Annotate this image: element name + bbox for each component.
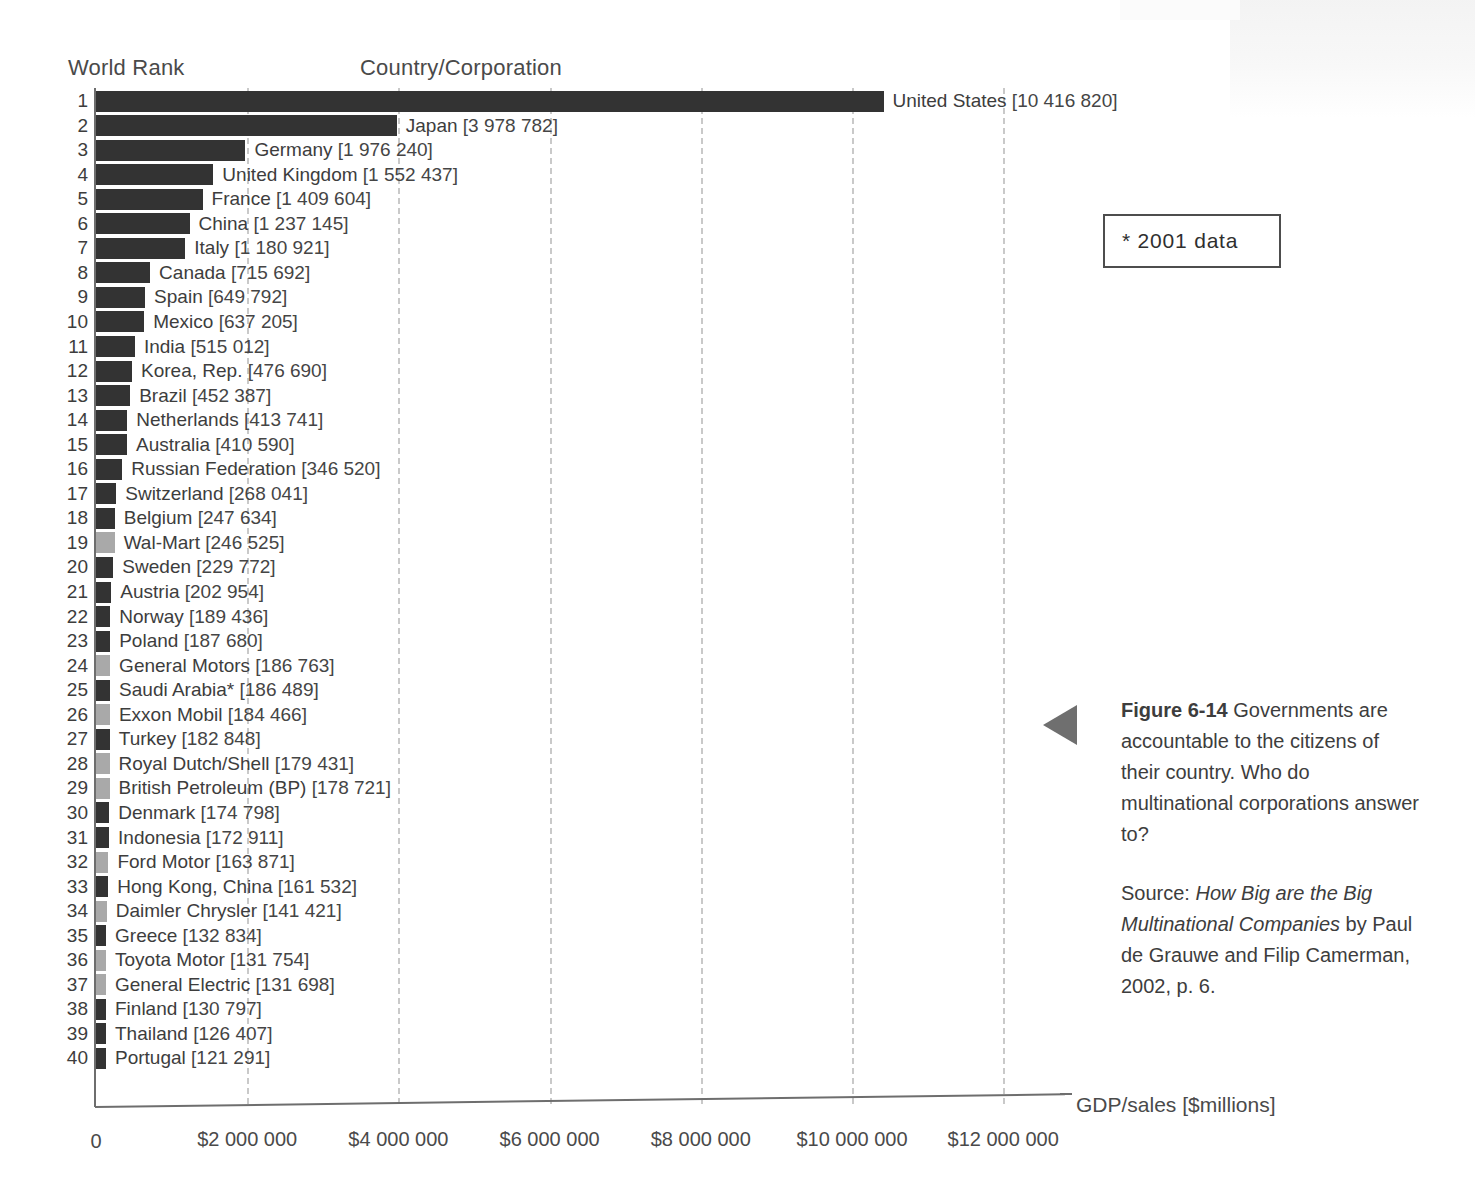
bar-label-value: [132 834]	[177, 925, 262, 946]
bar-country	[96, 508, 115, 529]
bar-label: Brazil [452 387]	[139, 385, 271, 406]
bar-label-name: General Motors	[119, 655, 250, 676]
bar-label: General Electric [131 698]	[115, 974, 335, 995]
bar-label-value: [189 436]	[184, 606, 269, 627]
bar-label-value: [202 954]	[179, 581, 264, 602]
bar-country	[96, 827, 109, 848]
bar-country	[96, 336, 135, 357]
row-rank: 33	[56, 877, 88, 897]
bar-label-value: [179 431]	[270, 753, 355, 774]
bar-label-name: Belgium	[124, 507, 193, 528]
row-rank: 40	[56, 1048, 88, 1068]
bar-label-value: [715 692]	[226, 262, 311, 283]
bar-label-name: Canada	[159, 262, 226, 283]
bar-label: British Petroleum (BP) [178 721]	[119, 777, 391, 798]
x-axis-line-tail	[1060, 1093, 1072, 1095]
bar-row: 21Austria [202 954]	[0, 580, 1475, 605]
bar-label: Norway [189 436]	[119, 606, 268, 627]
bar-row: 16Russian Federation [346 520]	[0, 457, 1475, 482]
bar-label-value: [413 741]	[239, 409, 324, 430]
bar-label: Russian Federation [346 520]	[131, 458, 380, 479]
bar-label-name: Denmark	[118, 802, 195, 823]
footnote-text: * 2001 data	[1122, 229, 1238, 253]
bar-row: 18Belgium [247 634]	[0, 506, 1475, 531]
bar-label-name: Royal Dutch/Shell	[119, 753, 270, 774]
bar-label-value: [637 205]	[213, 311, 298, 332]
bar-row: 12Korea, Rep. [476 690]	[0, 359, 1475, 384]
bar-label: Netherlands [413 741]	[136, 409, 323, 430]
bar-label-value: [649 792]	[203, 286, 288, 307]
row-rank: 34	[56, 901, 88, 921]
bar-country	[96, 361, 132, 382]
bar-label-name: Indonesia	[118, 827, 200, 848]
x-tick-label: $12 000 000	[948, 1128, 1059, 1151]
bar-label: France [1 409 604]	[212, 188, 372, 209]
row-rank: 13	[56, 386, 88, 406]
row-rank: 18	[56, 508, 88, 528]
bar-row: 13Brazil [452 387]	[0, 384, 1475, 409]
bar-label-value: [187 680]	[178, 630, 263, 651]
bar-country	[96, 410, 127, 431]
bar-row: 17Switzerland [268 041]	[0, 482, 1475, 507]
bar-label-value: [229 772]	[191, 556, 276, 577]
bar-country	[96, 876, 108, 897]
bar-label-value: [247 634]	[192, 507, 277, 528]
bar-country	[96, 262, 150, 283]
bar-country	[96, 434, 127, 455]
bar-label-value: [1 237 145]	[248, 213, 348, 234]
bar-label-value: [141 421]	[257, 900, 342, 921]
bar-label-name: Sweden	[122, 556, 191, 577]
bar-label-value: [476 690]	[242, 360, 327, 381]
figure-caption: Figure 6-14 Governments are accountable …	[1121, 695, 1421, 1002]
bar-label-name: Brazil	[139, 385, 187, 406]
x-tick-label: $6 000 000	[500, 1128, 600, 1151]
bar-row: 15Australia [410 590]	[0, 433, 1475, 458]
bar-country	[96, 311, 144, 332]
bar-label-name: Germany	[254, 139, 332, 160]
bar-label-value: [182 848]	[176, 728, 261, 749]
bar-row: 23Poland [187 680]	[0, 629, 1475, 654]
row-rank: 7	[56, 238, 88, 258]
bar-label: Exxon Mobil [184 466]	[119, 704, 307, 725]
bar-label-name: Norway	[119, 606, 183, 627]
bar-label-value: [268 041]	[223, 483, 308, 504]
bar-label: Hong Kong, China [161 532]	[117, 876, 357, 897]
bar-label-value: [452 387]	[187, 385, 272, 406]
bar-country	[96, 802, 109, 823]
row-rank: 9	[56, 287, 88, 307]
bar-label: Mexico [637 205]	[153, 311, 298, 332]
row-rank: 31	[56, 828, 88, 848]
row-rank: 20	[56, 557, 88, 577]
bar-label: United States [10 416 820]	[893, 90, 1118, 111]
bar-corporation	[96, 974, 106, 995]
bar-country	[96, 238, 185, 259]
bar-corporation	[96, 704, 110, 725]
source-prefix: Source:	[1121, 882, 1195, 904]
bar-label: Japan [3 978 782]	[406, 115, 558, 136]
bar-label-value: [1 180 921]	[229, 237, 329, 258]
bar-label: Portugal [121 291]	[115, 1047, 270, 1068]
bar-label: Italy [1 180 921]	[194, 237, 329, 258]
row-rank: 8	[56, 263, 88, 283]
bar-label: Korea, Rep. [476 690]	[141, 360, 327, 381]
bar-label-value: [130 797]	[177, 998, 262, 1019]
row-rank: 17	[56, 484, 88, 504]
bar-label-name: Australia	[136, 434, 210, 455]
bar-label-value: [126 407]	[188, 1023, 273, 1044]
bar-country	[96, 631, 110, 652]
bar-label-name: Exxon Mobil	[119, 704, 223, 725]
x-tick-label: $8 000 000	[651, 1128, 751, 1151]
bar-country	[96, 680, 110, 701]
bar-corporation	[96, 950, 106, 971]
bar-row: 5France [1 409 604]	[0, 187, 1475, 212]
bar-label: Spain [649 792]	[154, 286, 287, 307]
bar-label: Australia [410 590]	[136, 434, 294, 455]
bar-country	[96, 925, 106, 946]
bar-country	[96, 606, 110, 627]
row-rank: 37	[56, 975, 88, 995]
bar-label-name: India	[144, 336, 185, 357]
row-rank: 12	[56, 361, 88, 381]
bar-country	[96, 287, 145, 308]
bar-country	[96, 213, 190, 234]
x-tick-label: $10 000 000	[796, 1128, 907, 1151]
